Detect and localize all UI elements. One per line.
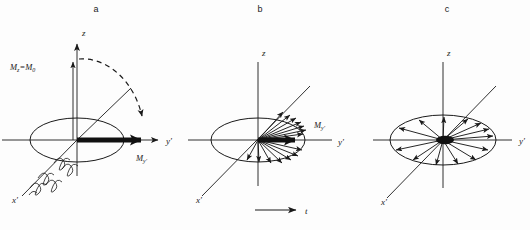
time-arrow-group: t bbox=[255, 206, 308, 216]
my-prime-label-b: My′ bbox=[313, 120, 326, 131]
z-axis-label-b: z bbox=[261, 48, 266, 58]
panel-letter-b: b bbox=[257, 4, 262, 14]
my-prime-label-a: My′ bbox=[135, 153, 148, 164]
dephasing-vector-fan-b bbox=[258, 112, 306, 140]
x-prime-axis-label-a: x′ bbox=[11, 195, 19, 205]
y-prime-axis-label-c: y′ bbox=[518, 136, 526, 146]
time-axis-label: t bbox=[305, 206, 308, 216]
panel-b: b bbox=[188, 4, 345, 205]
magnetization-evolution-diagram: a bbox=[0, 0, 530, 230]
panel-letter-a: a bbox=[93, 4, 98, 14]
x-prime-axis-label-c: x′ bbox=[380, 197, 388, 207]
x-prime-axis-label-b: x′ bbox=[195, 195, 203, 205]
panel-a: a bbox=[2, 4, 173, 205]
y-prime-axis-label-a: y′ bbox=[165, 136, 173, 146]
x-prime-positive-a bbox=[77, 88, 131, 140]
z-axis-label-a: z bbox=[81, 28, 86, 38]
panel-c: c bbox=[373, 4, 526, 207]
origin-vector-cluster-c bbox=[436, 136, 454, 144]
dephasing-vector-fan-lower-b bbox=[247, 140, 302, 163]
panel-letter-c: c bbox=[445, 4, 450, 14]
z-axis-label-c: z bbox=[446, 48, 451, 58]
mz-equals-m0-label-a: Mz=M0 bbox=[9, 62, 35, 73]
figure-root: a bbox=[0, 0, 530, 230]
y-prime-axis-label-b: y′ bbox=[337, 137, 345, 147]
